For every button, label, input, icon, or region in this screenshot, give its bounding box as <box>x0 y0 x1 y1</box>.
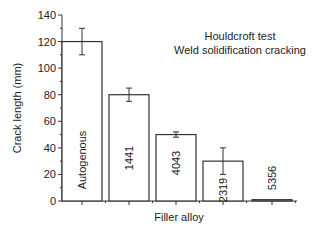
category-label: 5356 <box>266 166 278 190</box>
y-axis: 020406080100120140 <box>38 9 62 207</box>
bar-1441: 1441 <box>109 88 149 201</box>
y-tick-label: 40 <box>44 142 56 154</box>
bar-chart: 020406080100120140 Autogenous14414043231… <box>0 0 321 231</box>
x-axis-label: Filler alloy <box>154 211 204 223</box>
category-label: 4043 <box>170 151 182 175</box>
chart-subtitle: Weld solidification cracking <box>174 44 306 56</box>
chart-title: Houldcroft test <box>205 30 276 42</box>
bar-5356: 5356 <box>252 166 292 201</box>
y-tick-label: 0 <box>50 195 56 207</box>
y-tick-label: 120 <box>38 36 56 48</box>
bar-2319: 2319 <box>203 148 243 202</box>
y-tick-label: 60 <box>44 115 56 127</box>
y-tick-label: 80 <box>44 89 56 101</box>
bar-4043: 4043 <box>156 132 196 201</box>
y-tick-label: 100 <box>38 62 56 74</box>
bar-autogenous: Autogenous <box>62 28 102 201</box>
category-label: Autogenous <box>76 130 88 189</box>
category-label: 2319 <box>217 178 229 202</box>
y-axis-label: Crack length (mm) <box>11 63 23 153</box>
y-tick-label: 20 <box>44 168 56 180</box>
y-tick-label: 140 <box>38 9 56 21</box>
category-label: 1441 <box>123 146 135 170</box>
